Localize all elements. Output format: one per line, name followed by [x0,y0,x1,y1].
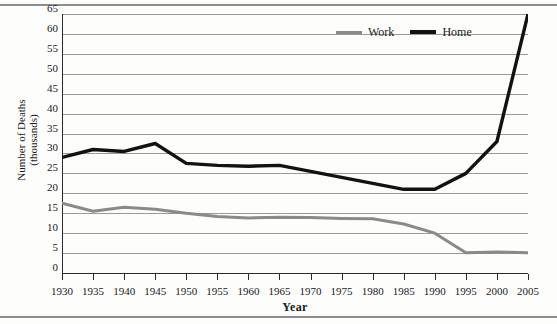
x-axis-tick-mark [342,274,343,280]
x-axis-tick-mark [248,274,249,280]
x-axis-tick-mark [497,274,498,280]
x-axis-tick-mark [62,274,63,280]
x-axis-tick-mark [279,274,280,280]
legend-swatch-work-icon [336,31,362,34]
x-axis-title: Year [62,300,528,315]
line-chart: 05101520253035404550556065 1930193519401… [0,8,557,312]
x-axis-tick-mark [311,274,312,280]
legend-label-home: Home [442,26,471,38]
x-axis-tick-mark [124,274,125,280]
y-axis-tick-label: 10 [32,222,58,233]
legend-label-work: Work [368,26,394,38]
series-line-home [62,14,528,189]
x-axis-tick-mark [404,274,405,280]
x-axis-tick-label: 2005 [508,285,548,297]
chart-page: 05101520253035404550556065 1930193519401… [0,0,557,324]
y-axis-tick-label: 55 [32,43,58,54]
y-axis-tick-label: 65 [32,3,58,14]
x-axis-tick-mark [435,274,436,280]
plot-area [62,14,528,273]
y-axis-title: Number of Deaths (thousands) [15,65,39,215]
y-axis-title-line2: (thousands) [27,65,39,215]
x-axis-tick-mark [217,274,218,280]
x-axis-line [62,273,528,274]
page-rule-bottom [0,316,557,318]
y-axis-title-line1: Number of Deaths [15,99,27,180]
legend-item-home: Home [410,26,471,38]
y-axis-tick-label: 60 [32,23,58,34]
x-axis-tick-mark [155,274,156,280]
y-axis-tick-label: 0 [32,262,58,273]
page-rule-top [0,4,557,6]
legend-item-work: Work [336,26,394,38]
x-axis-tick-mark [186,274,187,280]
legend-swatch-home-icon [410,30,436,34]
x-axis-tick-mark [93,274,94,280]
x-axis-tick-mark [528,274,529,280]
series-line-work [62,203,528,252]
chart-legend: Work Home [336,26,472,38]
x-axis-tick-mark [373,274,374,280]
y-axis-tick-label: 5 [32,242,58,253]
x-axis-tick-mark [466,274,467,280]
